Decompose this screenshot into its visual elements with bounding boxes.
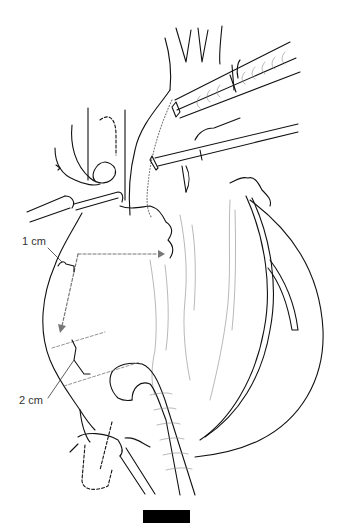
leader-lines [48,248,74,398]
arrowheads [58,250,165,333]
illustration-canvas [0,0,343,523]
upper-cannula [172,42,300,118]
measurement-arrows [52,254,158,386]
label-1cm: 1 cm [22,236,46,247]
surgical-illustration [0,0,343,523]
upper-cannula-hatch [197,52,285,108]
atrial-wall-hatch [150,200,236,400]
label-2cm: 2 cm [19,395,43,406]
arch-vessels [129,26,222,218]
ventricle-outline [195,177,323,457]
right-atrium-outline [43,206,173,430]
middle-cannula [150,118,298,192]
ivc-tourniquet [70,410,155,494]
svc-structures [55,108,125,200]
incision-marks [58,262,90,374]
left-cannula [27,192,123,222]
ivc-cannula-rings [150,393,192,470]
scale-bar [143,510,190,523]
